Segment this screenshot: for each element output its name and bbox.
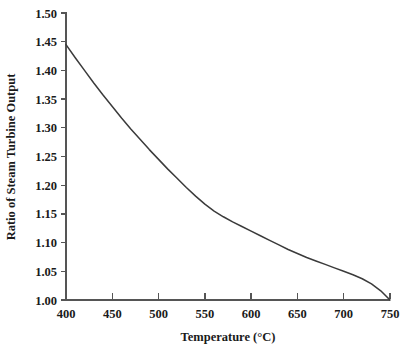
y-tick-label: 1.00	[35, 294, 57, 308]
y-tick-label: 1.40	[35, 64, 57, 78]
y-axis-tick-labels: 1.001.051.101.151.201.251.301.351.401.45…	[35, 7, 57, 308]
y-axis-title: Ratio of Steam Turbine Output	[4, 73, 18, 241]
y-tick-label: 1.20	[35, 179, 57, 193]
x-tick-label: 550	[195, 307, 214, 321]
chart-figure: 1.001.051.101.151.201.251.301.351.401.45…	[0, 0, 412, 350]
y-tick-label: 1.25	[35, 150, 57, 164]
y-tick-label: 1.30	[35, 121, 57, 135]
x-axis-title: Temperature (°C)	[181, 330, 276, 344]
y-tick-label: 1.10	[35, 236, 57, 250]
x-tick-label: 650	[288, 307, 307, 321]
x-tick-label: 500	[149, 307, 168, 321]
data-series-line	[66, 45, 390, 300]
x-axis-ticks	[66, 293, 390, 299]
y-tick-label: 1.05	[35, 265, 57, 279]
y-tick-label: 1.45	[35, 35, 57, 49]
x-tick-label: 700	[334, 307, 353, 321]
x-tick-label: 750	[381, 307, 400, 321]
x-axis-tick-labels: 400450500550600650700750	[57, 307, 400, 321]
y-tick-label: 1.15	[35, 207, 57, 221]
chart-plot-area: 1.001.051.101.151.201.251.301.351.401.45…	[0, 0, 412, 350]
x-tick-label: 450	[103, 307, 122, 321]
x-tick-label: 400	[57, 307, 76, 321]
y-tick-label: 1.50	[35, 7, 57, 21]
x-tick-label: 600	[242, 307, 261, 321]
y-tick-label: 1.35	[35, 93, 57, 107]
